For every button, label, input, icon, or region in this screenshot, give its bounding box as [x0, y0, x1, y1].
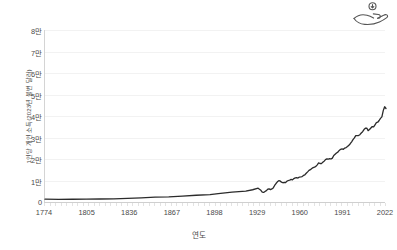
x-axis-minor-tick — [270, 203, 271, 206]
x-axis-tick-label: 1960 — [292, 208, 308, 217]
x-axis-minor-tick — [88, 203, 89, 206]
x-axis-minor-tick — [66, 203, 67, 206]
x-axis-tick-label: 1805 — [78, 208, 94, 217]
x-axis-minor-tick — [182, 203, 183, 206]
x-axis-minor-tick — [94, 203, 95, 206]
x-axis-minor-tick — [352, 203, 353, 206]
x-axis-tick-label: 1867 — [164, 208, 180, 217]
plot-area — [44, 30, 385, 202]
x-axis-minor-tick — [220, 203, 221, 206]
x-axis-tick-label: 1898 — [206, 208, 222, 217]
x-axis-tick-label: 1774 — [36, 208, 52, 217]
x-axis-minor-tick — [253, 203, 254, 206]
x-axis-minor-tick — [149, 203, 150, 206]
x-axis-minor-tick — [374, 203, 375, 206]
x-axis-tick-label: 2022 — [377, 208, 393, 217]
x-axis-tick-label: 1836 — [121, 208, 137, 217]
x-axis-minor-tick — [369, 203, 370, 206]
x-axis-minor-tick — [55, 203, 56, 206]
x-axis-tick-marks — [44, 203, 385, 206]
x-axis-minor-tick — [325, 203, 326, 206]
chart-container: 1인당 개인 소득(2023년 불변 달러) 8만7만6만5만4만3만2만1만0… — [0, 0, 397, 250]
x-axis-minor-tick — [237, 203, 238, 206]
x-axis-minor-tick — [204, 203, 205, 206]
x-axis-minor-tick — [264, 203, 265, 206]
x-axis-minor-tick — [154, 203, 155, 206]
y-axis-tick-label: 1만 — [16, 175, 42, 186]
x-axis-minor-tick — [198, 203, 199, 206]
x-axis-minor-tick — [138, 203, 139, 206]
y-axis-tick-label: 0 — [16, 198, 42, 207]
x-axis-minor-tick — [77, 203, 78, 206]
x-axis-minor-tick — [297, 203, 298, 206]
x-axis-minor-tick — [61, 203, 62, 206]
y-axis-tick-label: 8만 — [16, 25, 42, 36]
x-axis-tick-labels: 177418051836186718981929196019912022 — [0, 208, 397, 222]
x-axis-minor-tick — [215, 203, 216, 206]
x-axis-minor-tick — [231, 203, 232, 206]
x-axis-minor-tick — [209, 203, 210, 206]
x-axis-minor-tick — [83, 203, 84, 206]
x-axis-minor-tick — [363, 203, 364, 206]
x-axis-minor-tick — [121, 203, 122, 206]
x-axis-minor-tick — [303, 203, 304, 206]
x-axis-minor-tick — [176, 203, 177, 206]
y-axis-tick-label: 6만 — [16, 68, 42, 79]
x-axis-minor-tick — [72, 203, 73, 206]
x-axis-minor-tick — [385, 203, 386, 206]
x-axis-minor-tick — [171, 203, 172, 206]
x-axis-minor-tick — [330, 203, 331, 206]
x-axis-minor-tick — [226, 203, 227, 206]
x-axis-minor-tick — [341, 203, 342, 206]
x-axis-minor-tick — [242, 203, 243, 206]
y-axis-tick-labels: 8만7만6만5만4만3만2만1만0 — [16, 25, 42, 205]
x-axis-title: 연도 — [0, 229, 397, 240]
series-path-per-capita-income — [45, 107, 386, 200]
x-axis-minor-tick — [292, 203, 293, 206]
y-axis-tick-label: 5만 — [16, 89, 42, 100]
x-axis-minor-tick — [99, 203, 100, 206]
x-axis-minor-tick — [165, 203, 166, 206]
x-axis-minor-tick — [44, 203, 45, 206]
y-axis-tick-label: 4만 — [16, 111, 42, 122]
x-axis-minor-tick — [308, 203, 309, 206]
x-axis-minor-tick — [105, 203, 106, 206]
x-axis-minor-tick — [314, 203, 315, 206]
x-axis-minor-tick — [380, 203, 381, 206]
series-line-chart — [45, 30, 386, 202]
x-axis-minor-tick — [281, 203, 282, 206]
x-axis-minor-tick — [358, 203, 359, 206]
x-axis-minor-tick — [143, 203, 144, 206]
x-axis-minor-tick — [110, 203, 111, 206]
x-axis-minor-tick — [275, 203, 276, 206]
x-axis-minor-tick — [193, 203, 194, 206]
x-axis-minor-tick — [259, 203, 260, 206]
x-axis-minor-tick — [160, 203, 161, 206]
y-axis-tick-label: 7만 — [16, 46, 42, 57]
y-axis-tick-label: 3만 — [16, 132, 42, 143]
x-axis-minor-tick — [127, 203, 128, 206]
x-axis-minor-tick — [347, 203, 348, 206]
x-axis-minor-tick — [116, 203, 117, 206]
x-axis-minor-tick — [286, 203, 287, 206]
x-axis-minor-tick — [336, 203, 337, 206]
x-axis-minor-tick — [50, 203, 51, 206]
x-axis-minor-tick — [319, 203, 320, 206]
x-axis-minor-tick — [248, 203, 249, 206]
x-axis-tick-label: 1929 — [249, 208, 265, 217]
x-axis-minor-tick — [132, 203, 133, 206]
x-axis-tick-label: 1991 — [334, 208, 350, 217]
x-axis-minor-tick — [187, 203, 188, 206]
hand-receiving-money-icon — [350, 2, 392, 28]
y-axis-tick-label: 2만 — [16, 154, 42, 165]
